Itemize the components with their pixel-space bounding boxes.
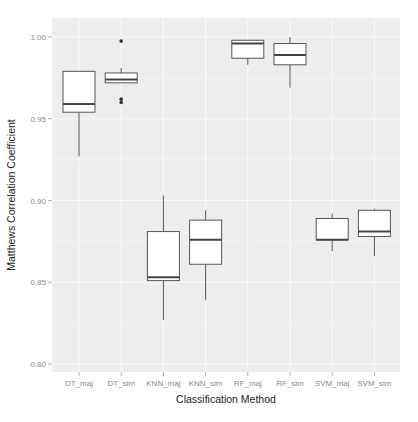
x-tick-label: DT_maj	[65, 379, 93, 388]
x-axis-title: Classification Method	[176, 393, 276, 405]
y-tick-label: 0.90	[30, 197, 46, 206]
x-tick-label: KNN_sim	[189, 379, 223, 388]
x-tick-label: SVM_maj	[315, 379, 350, 388]
iqr-box	[316, 218, 348, 239]
outlier-point	[119, 101, 123, 105]
iqr-box	[147, 232, 179, 281]
boxplot-chart: 0.800.850.900.951.00 DT_majDT_simKNN_maj…	[0, 0, 418, 422]
outlier-point	[119, 97, 123, 101]
y-tick-label: 0.95	[30, 115, 46, 124]
y-tick-label: 0.80	[30, 360, 46, 369]
x-axis: DT_majDT_simKNN_majKNN_simRF_majRF_simSV…	[65, 372, 392, 388]
y-axis: 0.800.850.900.951.00	[30, 33, 52, 369]
x-tick-label: DT_sim	[107, 379, 135, 388]
iqr-box	[105, 73, 137, 83]
x-tick-label: SVM_sim	[357, 379, 392, 388]
y-axis-title: Matthews Correlation Coefficient	[5, 119, 17, 271]
iqr-box	[63, 71, 95, 112]
y-tick-label: 0.85	[30, 278, 46, 287]
x-tick-label: KNN_maj	[146, 379, 180, 388]
panel-texture	[52, 18, 400, 372]
iqr-box	[190, 220, 222, 264]
y-tick-label: 1.00	[30, 33, 46, 42]
outlier-point	[119, 39, 123, 43]
x-tick-label: RF_sim	[276, 379, 304, 388]
x-tick-label: RF_maj	[234, 379, 262, 388]
